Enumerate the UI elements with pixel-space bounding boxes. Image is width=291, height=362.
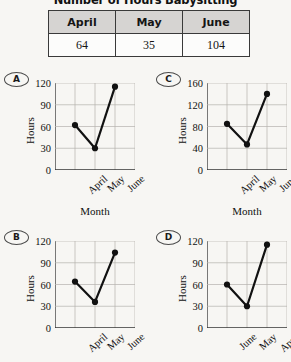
x-tick-label: April: [278, 331, 291, 354]
table-cell: 64: [49, 34, 116, 57]
plot-area: [207, 241, 287, 328]
x-tick-label: June: [125, 331, 147, 352]
y-tick-label: 60: [4, 279, 51, 290]
x-axis-label: Month: [55, 205, 135, 217]
plot-area: [55, 83, 135, 170]
x-tick-label: May: [105, 173, 127, 194]
answer-option-d[interactable]: DHours0306090120JuneMayApril: [156, 230, 291, 362]
y-tick-label: 0: [4, 165, 51, 176]
y-tick-label: 60: [156, 279, 203, 290]
y-tick-label: 0: [156, 165, 203, 176]
x-tick-label: June: [125, 173, 147, 194]
y-tick-label: 90: [156, 257, 203, 268]
chart-b: Hours0306090120AprilMayJune: [4, 230, 149, 362]
table-cell: 104: [183, 34, 250, 57]
table-row: 64 35 104: [49, 34, 250, 57]
y-tick-label: 0: [4, 323, 51, 334]
y-tick-label: 30: [156, 301, 203, 312]
answer-option-a[interactable]: AHours0306090120AprilMayJuneMonth: [4, 72, 149, 222]
x-axis-label: Month: [207, 205, 287, 217]
y-tick-label: 90: [4, 257, 51, 268]
answer-option-c[interactable]: CHours04080120160AprilMayJuneMonth: [156, 72, 291, 222]
x-tick-label: May: [257, 331, 279, 352]
y-tick-label: 80: [156, 121, 203, 132]
y-tick-label: 120: [156, 236, 203, 247]
y-tick-label: 120: [156, 99, 203, 110]
plot-area: [55, 241, 135, 328]
chart-a: Hours0306090120AprilMayJuneMonth: [4, 72, 149, 222]
y-tick-label: 30: [4, 301, 51, 312]
y-tick-label: 60: [4, 121, 51, 132]
y-tick-label: 40: [156, 143, 203, 154]
table-header-cell: April: [49, 11, 116, 34]
x-tick-label: June: [277, 173, 291, 194]
chart-d: Hours0306090120JuneMayApril: [156, 230, 291, 362]
y-tick-label: 0: [156, 323, 203, 334]
chart-c: Hours04080120160AprilMayJuneMonth: [156, 72, 291, 222]
table-cell: 35: [116, 34, 183, 57]
y-tick-label: 120: [4, 236, 51, 247]
page-title: Number of Hours Babysitting: [0, 0, 291, 7]
x-tick-label: June: [237, 331, 259, 352]
answer-option-b[interactable]: BHours0306090120AprilMayJune: [4, 230, 149, 362]
y-tick-label: 30: [4, 143, 51, 154]
table-header-row: April May June: [49, 11, 250, 34]
x-tick-label: May: [257, 173, 279, 194]
y-tick-label: 160: [156, 78, 203, 89]
data-table: April May June 64 35 104: [48, 10, 250, 57]
table-header-cell: May: [116, 11, 183, 34]
worksheet-page: Number of Hours Babysitting April May Ju…: [0, 0, 291, 362]
y-tick-label: 90: [4, 99, 51, 110]
table-header-cell: June: [183, 11, 250, 34]
plot-area: [207, 83, 287, 170]
y-tick-label: 120: [4, 78, 51, 89]
x-tick-label: May: [105, 331, 127, 352]
